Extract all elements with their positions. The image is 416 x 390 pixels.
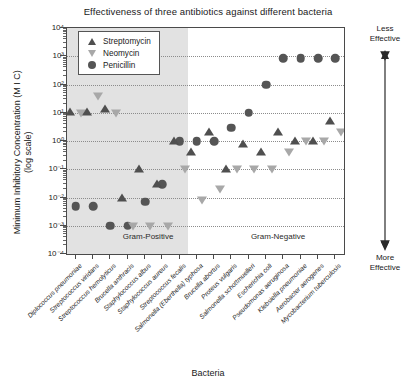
data-point: [249, 166, 259, 174]
legend-item-penicillin: Penicillin: [84, 59, 151, 71]
data-point: [227, 123, 236, 132]
y-minor-tick: [63, 42, 66, 43]
x-tick-mark: [334, 255, 335, 259]
y-axis-label-line1: Minimum Inhibitory Concentration (M I C): [12, 70, 22, 234]
gram-positive-annotation: Gram-Positive: [123, 232, 174, 241]
data-point: [279, 54, 288, 63]
data-point: [267, 166, 277, 174]
x-tick-mark: [92, 255, 93, 259]
y-minor-tick: [63, 226, 66, 227]
y-minor-tick: [63, 118, 66, 119]
y-minor-tick: [63, 211, 66, 212]
y-minor-tick: [63, 113, 66, 114]
data-point: [71, 202, 80, 211]
data-point: [180, 166, 190, 174]
less-effective-line2: Effective: [370, 34, 401, 43]
x-axis-title: Bacteria: [0, 368, 416, 378]
chart-figure: Effectiveness of three antibiotics again…: [0, 0, 416, 390]
data-point: [66, 107, 75, 115]
data-point: [319, 137, 329, 145]
effectiveness-arrow-icon: [350, 48, 416, 253]
y-minor-tick: [63, 205, 66, 206]
y-minor-tick: [63, 127, 66, 128]
triangle-up-icon: [84, 38, 100, 45]
data-point: [204, 128, 214, 136]
legend-label: Penicillin: [103, 61, 135, 70]
x-tick-mark: [144, 255, 145, 259]
data-point: [93, 92, 103, 100]
y-minor-tick: [63, 64, 66, 65]
x-tick-mark: [127, 255, 128, 259]
y-minor-tick: [63, 236, 66, 237]
legend-item-neomycin: Neomycin: [84, 47, 151, 59]
y-minor-tick: [63, 208, 66, 209]
data-point: [106, 221, 115, 230]
data-point: [163, 222, 173, 230]
gridline: [67, 169, 344, 170]
y-minor-tick: [63, 188, 66, 189]
y-minor-tick: [63, 171, 66, 172]
y-minor-tick: [63, 114, 66, 115]
data-point: [128, 222, 138, 230]
y-axis-label-line2: (log scale): [23, 132, 33, 174]
y-minor-tick: [63, 28, 66, 29]
legend-item-streptomycin: Streptomycin: [84, 35, 151, 47]
y-minor-tick: [63, 116, 66, 117]
x-tick-mark: [161, 255, 162, 259]
y-minor-tick: [63, 60, 66, 61]
y-minor-tick: [63, 151, 66, 152]
legend-label: Neomycin: [103, 49, 139, 58]
x-tick-mark: [75, 255, 76, 259]
y-minor-tick: [63, 131, 66, 132]
data-point: [197, 197, 207, 205]
data-point: [273, 128, 283, 136]
data-point: [290, 137, 300, 145]
y-minor-tick: [63, 95, 66, 96]
data-point: [221, 165, 231, 173]
y-minor-tick: [63, 66, 66, 67]
data-point: [152, 180, 162, 188]
gridline: [67, 85, 344, 86]
data-point: [89, 202, 98, 211]
gram-negative-annotation: Gram-Negative: [251, 232, 305, 241]
x-tick-mark: [300, 255, 301, 259]
data-point: [232, 166, 242, 174]
legend-label: Streptomycin: [103, 37, 151, 46]
y-minor-tick: [63, 144, 66, 145]
y-minor-tick: [63, 58, 66, 59]
y-tick-mark: [60, 253, 66, 254]
x-tick-mark: [248, 255, 249, 259]
data-point: [325, 117, 335, 125]
y-minor-tick: [63, 177, 66, 178]
y-minor-tick: [63, 47, 66, 48]
data-point: [215, 185, 225, 193]
y-minor-tick: [63, 198, 66, 199]
x-tick-mark: [282, 255, 283, 259]
y-minor-tick: [63, 244, 66, 245]
y-minor-tick: [63, 141, 66, 142]
y-minor-tick: [63, 170, 66, 171]
x-tick-mark: [317, 255, 318, 259]
x-tick-mark: [109, 255, 110, 259]
y-minor-tick: [63, 216, 66, 217]
y-minor-tick: [63, 149, 66, 150]
data-point: [308, 137, 318, 145]
y-minor-tick: [63, 75, 66, 76]
less-effective-line1: Less: [377, 24, 394, 33]
triangle-down-icon: [84, 50, 100, 57]
data-point: [193, 137, 202, 146]
x-tick-mark: [230, 255, 231, 259]
chart-title: Effectiveness of three antibiotics again…: [0, 6, 416, 17]
y-minor-tick: [63, 33, 66, 34]
y-tick-label: 10⁴: [24, 23, 64, 32]
y-minor-tick: [63, 85, 66, 86]
data-point: [284, 149, 294, 157]
y-minor-tick: [63, 123, 66, 124]
y-minor-tick: [63, 201, 66, 202]
y-minor-tick: [63, 103, 66, 104]
y-minor-tick: [63, 30, 66, 31]
less-effective-annotation: Less Effective: [350, 24, 416, 44]
y-minor-tick: [63, 146, 66, 147]
data-point: [262, 80, 271, 89]
data-point: [117, 193, 127, 201]
